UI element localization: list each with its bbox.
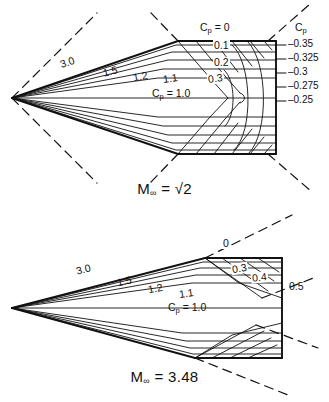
mach-subscript: ∞ bbox=[143, 376, 150, 386]
stagnation-cp-label: Cp = 1.0 bbox=[168, 302, 206, 315]
cp-subscript: p bbox=[303, 26, 307, 35]
cp-value: = 1.0 bbox=[180, 301, 207, 313]
panel-caption-mach: M∞ = 3.48 bbox=[0, 368, 329, 386]
surface-label: 1.1 bbox=[178, 287, 194, 300]
cp-axis-value: –0.25 bbox=[288, 95, 313, 105]
cp-axis-title: Cp bbox=[295, 22, 307, 35]
contour-label: 0.2 bbox=[213, 57, 230, 68]
mach-subscript: ∞ bbox=[150, 188, 157, 198]
contour-label: 0 bbox=[222, 238, 230, 249]
cp-axis-value: –0.275 bbox=[288, 81, 319, 91]
surface-label: 1.1 bbox=[162, 72, 178, 84]
cp-symbol: C bbox=[295, 21, 303, 33]
equals-sign: = bbox=[155, 368, 164, 385]
mach-value: 3.48 bbox=[168, 368, 198, 385]
panel-top-drawing bbox=[0, 0, 329, 205]
cp-axis-value: –0.325 bbox=[288, 53, 319, 63]
panel-mach-sqrt2: 3.0 1.5 1.2 1.1 Cp = 1.0 Cp = 0 0.1 0.2 … bbox=[0, 0, 329, 205]
stagnation-cp-label: Cp = 1.0 bbox=[152, 88, 190, 101]
contour-label: 0.5 bbox=[289, 281, 304, 292]
panel-mach-3-48: 3.0 1.5 1.2 1.1 Cp = 1.0 0 0.3 0.4 0.5 M… bbox=[0, 205, 329, 402]
cp-axis-value: –0.3 bbox=[288, 67, 307, 77]
contour-label-cp0: Cp = 0 bbox=[200, 22, 230, 35]
cp-symbol: C bbox=[168, 301, 176, 313]
cp-value: = 1.0 bbox=[164, 87, 191, 99]
surface-label: 1.2 bbox=[147, 282, 163, 295]
contour-label: 0.1 bbox=[213, 40, 230, 51]
cp-symbol: C bbox=[200, 21, 208, 33]
surface-label: 1.2 bbox=[132, 70, 148, 83]
contour-label: 0.4 bbox=[250, 271, 268, 283]
contour-label: 0.3 bbox=[206, 72, 224, 85]
cp-symbol: C bbox=[152, 87, 160, 99]
panel-caption-mach: M∞ = √2 bbox=[0, 180, 329, 198]
cp-axis-value: –0.35 bbox=[288, 39, 313, 49]
mach-symbol: M bbox=[131, 368, 144, 385]
mach-symbol: M bbox=[137, 180, 150, 197]
equals-sign: = bbox=[161, 180, 170, 197]
cp-value: = 0 bbox=[212, 21, 230, 33]
mach-value: √2 bbox=[175, 180, 192, 197]
contour-label: 0.3 bbox=[230, 262, 248, 275]
